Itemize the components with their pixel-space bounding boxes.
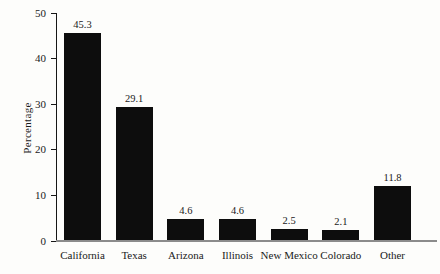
y-axis-tick-label: 0 [10, 235, 46, 248]
x-axis-line [56, 240, 437, 242]
y-axis-tick-mark [51, 195, 56, 196]
bar-california [64, 33, 101, 240]
bar-colorado [322, 230, 359, 240]
y-axis-line [56, 13, 57, 242]
bar-illinois [219, 219, 256, 240]
bar-new-mexico [271, 229, 308, 240]
plot-area: 01020304050 45.3California29.1Texas4.6Ar… [56, 13, 437, 241]
y-axis-tick-label: 50 [10, 7, 46, 20]
bar-other [374, 186, 411, 240]
y-axis-tick-mark [51, 13, 56, 14]
bar-value-label: 45.3 [53, 19, 113, 31]
y-axis-tick-mark [51, 104, 56, 105]
y-axis-tick-label: 30 [10, 98, 46, 111]
y-axis-tick-mark [51, 58, 56, 59]
y-axis-tick-label: 20 [10, 143, 46, 156]
bar-chart-figure: Percentage 01020304050 45.3California29.… [0, 0, 440, 274]
y-axis-title: Percentage [20, 78, 34, 178]
bar-texas [116, 107, 153, 240]
x-axis-tick-label: Other [353, 249, 433, 262]
y-axis-tick-label: 40 [10, 52, 46, 65]
bar-value-label: 11.8 [363, 172, 423, 184]
y-axis-tick-label: 10 [10, 189, 46, 202]
bar-value-label: 29.1 [104, 93, 164, 105]
y-axis-tick-mark [51, 241, 56, 242]
bar-arizona [167, 219, 204, 240]
bar-value-label: 2.1 [311, 216, 371, 228]
y-axis-tick-mark [51, 149, 56, 150]
